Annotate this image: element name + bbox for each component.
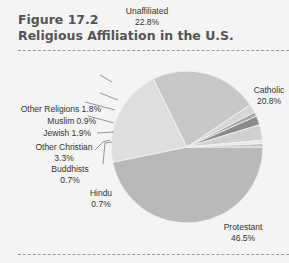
label-hindu: Hindu0.7%: [90, 188, 112, 209]
label-protestant: Protestant46.5%: [224, 222, 263, 243]
label-buddhists: Buddhists0.7%: [51, 164, 88, 185]
pie-slice-protestant: [113, 147, 263, 223]
label-other-religions: Other Religions 1.8%: [21, 104, 102, 114]
label-jewish: Jewish 1.9%: [43, 128, 91, 138]
label-other-christian: Other Christian3.3%: [35, 142, 92, 163]
label-catholic: Catholic20.8%: [254, 85, 285, 106]
pie-slices: [111, 71, 263, 223]
label-muslim: Muslim 0.9%: [47, 116, 96, 126]
label-unaffiliated: Unaffiliated22.8%: [126, 6, 169, 27]
pie-chart: Unaffiliated22.8% Catholic20.8% Other Re…: [0, 0, 289, 263]
